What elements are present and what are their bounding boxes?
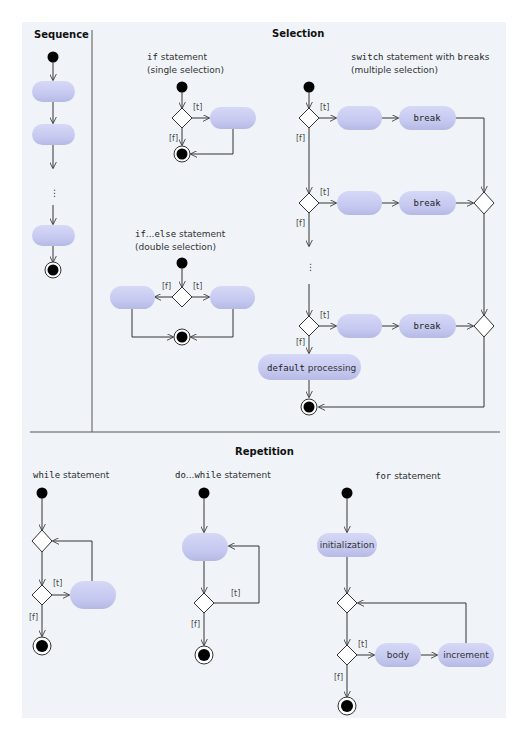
if-subcaption: (single selection) <box>147 65 224 75</box>
guard-false: [f] <box>334 673 343 682</box>
initial-node-icon <box>199 488 210 499</box>
decision-diamond <box>172 287 192 307</box>
ellipsis: ⋮ <box>50 188 59 198</box>
increment-label: increment <box>443 650 489 660</box>
ellipsis: ⋮ <box>306 262 315 272</box>
decision-diamond <box>32 530 52 552</box>
initial-node-icon <box>304 82 315 93</box>
decision-diamond <box>337 645 357 665</box>
break-label: break <box>413 113 441 123</box>
action-state <box>337 314 382 338</box>
action-state <box>110 286 155 309</box>
initial-node-icon <box>48 52 59 63</box>
action-state <box>32 124 75 145</box>
action-state <box>210 107 256 129</box>
switch-subcaption: (multiple selection) <box>351 65 438 75</box>
initialization-label: initialization <box>320 540 375 550</box>
sequence-title: Sequence <box>34 29 89 40</box>
guard-false: [f] <box>296 338 305 347</box>
sequence-diagram: Sequence ⋮ <box>32 29 89 278</box>
if-else-subcaption: (double selection) <box>135 242 216 252</box>
repetition-title: Repetition <box>235 446 294 457</box>
guard-true: [t] <box>193 282 202 291</box>
guard-true: [t] <box>320 188 329 197</box>
action-state <box>337 191 382 215</box>
guard-false: [f] <box>191 620 200 629</box>
if-else-caption: if...else statement <box>135 229 226 239</box>
initial-node-icon <box>177 82 188 93</box>
break-label: break <box>413 198 441 208</box>
for-caption: for statement <box>375 471 441 481</box>
guard-false: [f] <box>162 282 171 291</box>
decision-diamond <box>299 193 319 213</box>
activity-diagrams: Sequence ⋮ Selection if statement (singl… <box>0 0 523 740</box>
action-state <box>70 581 116 609</box>
action-state <box>182 533 228 561</box>
guard-false: [f] <box>29 613 38 622</box>
action-state <box>337 106 382 130</box>
break-label: break <box>413 321 441 331</box>
guard-true: [t] <box>193 103 202 112</box>
guard-false: [f] <box>169 134 178 143</box>
switch-diagram: switch statement with breaks (multiple s… <box>258 52 494 415</box>
decision-diamond <box>172 108 192 128</box>
do-while-diagram: do...while statement [t] [f] <box>175 470 271 664</box>
body-label: body <box>387 650 410 660</box>
action-state <box>210 286 255 309</box>
decision-diamond <box>299 108 319 128</box>
if-diagram: if statement (single selection) [t] [f] <box>147 52 256 162</box>
decision-diamond <box>194 593 214 613</box>
if-caption: if statement <box>147 52 208 62</box>
do-while-caption: do...while statement <box>175 470 271 480</box>
switch-caption: switch statement with breaks <box>351 52 490 62</box>
guard-false: [f] <box>296 219 305 228</box>
if-else-diagram: if...else statement (double selection) [… <box>110 229 255 345</box>
initial-node-icon <box>342 488 353 499</box>
decision-diamond <box>32 585 52 605</box>
merge-diamond <box>474 192 494 214</box>
action-state <box>32 225 75 246</box>
default-processing-label: default processing <box>267 363 356 373</box>
guard-true: [t] <box>358 640 367 649</box>
while-diagram: while statement [t] [f] <box>29 470 116 655</box>
initial-node-icon <box>177 258 188 269</box>
guard-true: [t] <box>231 589 240 598</box>
guard-false: [f] <box>296 134 305 143</box>
guard-true: [t] <box>53 579 62 588</box>
merge-diamond <box>474 315 494 337</box>
decision-diamond <box>299 316 319 336</box>
decision-diamond <box>337 593 357 613</box>
action-state <box>32 81 75 102</box>
initial-node-icon <box>37 488 48 499</box>
guard-true: [t] <box>320 103 329 112</box>
for-diagram: for statement initialization [t] [f] bod… <box>317 471 494 715</box>
while-caption: while statement <box>33 470 110 480</box>
selection-title: Selection <box>272 28 324 39</box>
guard-true: [t] <box>320 311 329 320</box>
